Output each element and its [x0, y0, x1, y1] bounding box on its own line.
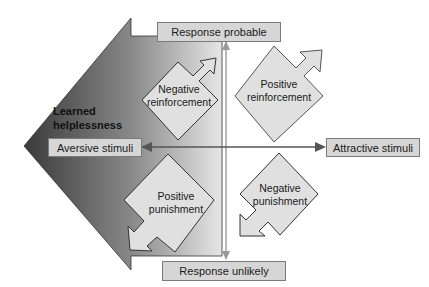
response-unlikely-box: Response unlikely: [162, 261, 286, 281]
label-line2: reinforcement: [246, 91, 312, 104]
response-probable-box: Response probable: [157, 22, 281, 42]
label-line2: punishment: [252, 195, 308, 208]
label-line1: Negative: [146, 83, 212, 96]
label-line1: Positive: [246, 78, 312, 91]
label-line1: Positive: [148, 190, 204, 203]
label-line2: reinforcement: [146, 96, 212, 109]
aversive-stimuli-box: Aversive stimuli: [48, 138, 142, 157]
learned-helplessness-line2: helplessness: [53, 118, 122, 132]
learning-diagram: Response probable Response unlikely Aver…: [0, 0, 429, 287]
learned-helplessness-label: Learned helplessness: [53, 104, 122, 132]
attractive-stimuli-box: Attractive stimuli: [326, 138, 420, 157]
learned-helplessness-line1: Learned: [53, 104, 122, 118]
negative-reinforcement-label: Negative reinforcement: [146, 83, 212, 109]
positive-punishment-label: Positive punishment: [148, 190, 204, 216]
negative-punishment-label: Negative punishment: [252, 182, 308, 208]
arrow-down-head: [222, 251, 230, 260]
label-line2: punishment: [148, 203, 204, 216]
arrow-up-head: [222, 41, 230, 50]
label-line1: Negative: [252, 182, 308, 195]
positive-reinforcement-label: Positive reinforcement: [246, 78, 312, 104]
arrow-right-head: [315, 142, 326, 152]
